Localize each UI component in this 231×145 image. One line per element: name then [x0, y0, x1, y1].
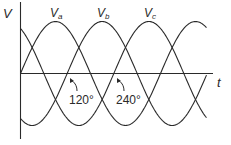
three-phase-waveform-diagram: V t Va Vb Vc 120° 240° — [0, 0, 231, 145]
phase-a-label: Va — [50, 6, 63, 21]
arrow-120-icon — [70, 78, 77, 91]
annotation-120: 120° — [69, 93, 94, 107]
phase-b-label: Vb — [97, 6, 110, 21]
t-axis-label: t — [217, 75, 222, 90]
phase-c-label: Vc — [144, 6, 156, 21]
annotation-240: 240° — [116, 93, 141, 107]
arrow-240-icon — [117, 78, 124, 91]
v-axis-label: V — [3, 6, 13, 21]
